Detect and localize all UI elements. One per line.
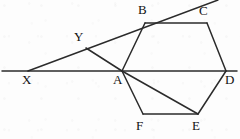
label-X: X (22, 73, 31, 86)
label-B: B (138, 3, 147, 16)
label-D: D (225, 73, 234, 86)
hexagon-edge-D-E (198, 71, 226, 114)
label-A: A (113, 73, 122, 86)
diagonal-A-E (122, 71, 198, 114)
geometry-diagram-svg (0, 0, 240, 139)
hexagon-edge-C-D (207, 23, 226, 71)
hexagon-edge-A-B (122, 23, 145, 71)
geometry-figure: XYABCDEF (0, 0, 240, 139)
label-F: F (136, 119, 143, 132)
label-Y: Y (74, 30, 83, 43)
label-C: C (199, 4, 208, 17)
segment-Y-A (86, 48, 122, 71)
label-E: E (192, 119, 200, 132)
transversal-ray (28, 0, 218, 71)
